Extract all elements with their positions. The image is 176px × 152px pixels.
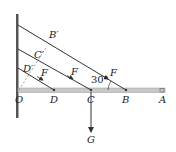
label-c: C [87, 94, 95, 105]
label-c-prime: C′ [34, 49, 45, 60]
label-d: D [49, 94, 58, 105]
label-force-b: F [109, 67, 118, 78]
label-b-prime: B′ [48, 29, 59, 40]
point-b [125, 89, 127, 91]
label-force-d: F [40, 67, 49, 78]
label-weight: G [87, 134, 95, 145]
label-d-prime: D′ [22, 63, 34, 74]
label-force-c: F [70, 66, 79, 77]
point-c [90, 89, 92, 91]
label-b: B [121, 94, 129, 105]
label-angle: 30° [91, 74, 109, 85]
point-d [53, 89, 55, 91]
label-o: O [15, 94, 23, 105]
label-a: A [158, 94, 166, 105]
diagram-canvas: O D C B A B′ C′ D′ F F F 30° G [0, 0, 176, 152]
